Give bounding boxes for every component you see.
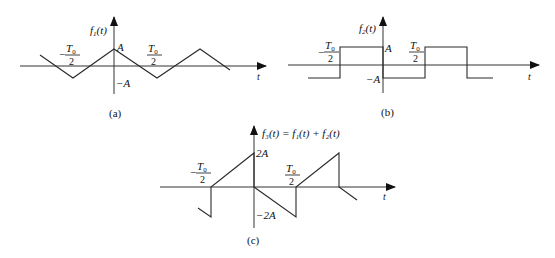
svg-text:T0: T0 xyxy=(148,42,158,56)
level-neg-2A-label: −2A xyxy=(256,209,276,221)
neg-half-period-label: − T0 2 xyxy=(318,39,339,64)
panel-b: f2(t) A −A − T0 2 T0 2 t (b) xyxy=(288,17,539,119)
level-neg-A-label: −A xyxy=(366,73,380,85)
pos-half-period-label: T0 2 xyxy=(285,162,300,187)
svg-text:T0: T0 xyxy=(197,160,207,174)
svg-text:2: 2 xyxy=(328,53,333,64)
level-2A-label: 2A xyxy=(256,147,269,159)
panel-c: f₃(t) = f₁(t) + f₂(t) 2A −2A − T0 2 T0 2… xyxy=(160,126,395,247)
svg-text:2: 2 xyxy=(69,56,74,67)
x-axis-label: t xyxy=(528,71,531,82)
svg-text:2: 2 xyxy=(151,56,156,67)
svg-text:T0: T0 xyxy=(66,42,76,56)
svg-text:2: 2 xyxy=(289,176,294,187)
panel-b-caption: (b) xyxy=(381,106,394,119)
level-A-label: A xyxy=(384,42,392,54)
svg-text:T0: T0 xyxy=(410,39,420,53)
level-neg-A-label: −A xyxy=(116,77,130,89)
x-axis-label: t xyxy=(257,71,260,82)
svg-text:2: 2 xyxy=(413,53,418,64)
svg-text:−: − xyxy=(318,46,324,58)
neg-half-period-label: − T0 2 xyxy=(190,160,211,185)
pos-half-period-label: T0 2 xyxy=(147,42,162,67)
sum-waveform xyxy=(198,153,357,217)
y-axis-label: f1(t) xyxy=(90,24,107,38)
signal-figure: f1(t) A −A − T0 2 T0 2 t (a) f2(t) A −A … xyxy=(0,0,555,258)
svg-text:−: − xyxy=(59,48,65,60)
panel-a: f1(t) A −A − T0 2 T0 2 t (a) xyxy=(20,17,266,120)
neg-half-period-label: − T0 2 xyxy=(59,42,80,67)
y-axis-label: f2(t) xyxy=(359,22,376,36)
y-axis-label: f₃(t) = f₁(t) + f₂(t) xyxy=(262,127,340,140)
level-A-label: A xyxy=(116,41,124,53)
svg-text:−: − xyxy=(190,166,196,178)
panel-c-caption: (c) xyxy=(247,234,260,247)
pos-half-period-label: T0 2 xyxy=(409,39,424,64)
svg-text:2: 2 xyxy=(200,174,205,185)
svg-text:T0: T0 xyxy=(286,162,296,176)
panel-a-caption: (a) xyxy=(109,107,122,120)
x-axis-label: t xyxy=(383,191,386,202)
svg-text:T0: T0 xyxy=(325,39,335,53)
